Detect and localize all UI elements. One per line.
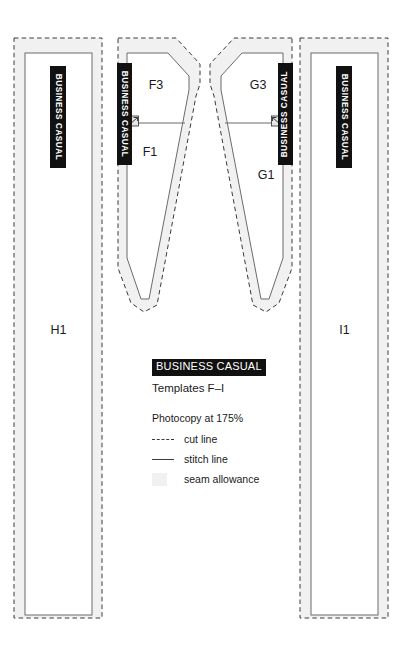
- legend-subtitle: Templates F–I: [152, 382, 302, 396]
- brand-tag-g3: BUSINESS CASUAL: [278, 63, 293, 165]
- brand-tag-f3-text: BUSINESS CASUAL: [120, 71, 128, 158]
- piece-code-g1: G1: [258, 168, 275, 182]
- brand-tag-h1-text: BUSINESS CASUAL: [54, 74, 62, 161]
- piece-code-h1: H1: [51, 323, 67, 337]
- piece-code-g3: G3: [250, 78, 267, 92]
- brand-tag-i1-text: BUSINESS CASUAL: [340, 74, 348, 161]
- legend: BUSINESS CASUAL Templates F–I Photocopy …: [152, 356, 302, 486]
- piece-code-f3: F3: [149, 78, 164, 92]
- legend-entry-cut-line-label: cut line: [184, 433, 217, 445]
- cut-line-key-icon: [152, 433, 176, 445]
- legend-scale-note: Photocopy at 175%: [152, 412, 302, 425]
- legend-entry-seam-allowance-label: seam allowance: [184, 473, 259, 485]
- legend-entry-seam-allowance: seam allowance: [152, 473, 302, 486]
- brand-tag-h1: BUSINESS CASUAL: [50, 66, 66, 168]
- legend-entry-stitch-line: stitch line: [152, 453, 302, 465]
- legend-entry-stitch-line-label: stitch line: [184, 453, 228, 465]
- piece-code-i1: I1: [339, 323, 349, 337]
- legend-title: BUSINESS CASUAL: [152, 359, 266, 376]
- brand-tag-f3: BUSINESS CASUAL: [117, 63, 132, 165]
- piece-code-f1: F1: [143, 145, 158, 159]
- seam-allowance-key-icon: [152, 473, 167, 486]
- stitch-line-key-icon: [152, 453, 176, 465]
- brand-tag-g3-text: BUSINESS CASUAL: [281, 71, 289, 158]
- legend-entry-cut-line: cut line: [152, 433, 302, 445]
- brand-tag-i1: BUSINESS CASUAL: [336, 66, 352, 168]
